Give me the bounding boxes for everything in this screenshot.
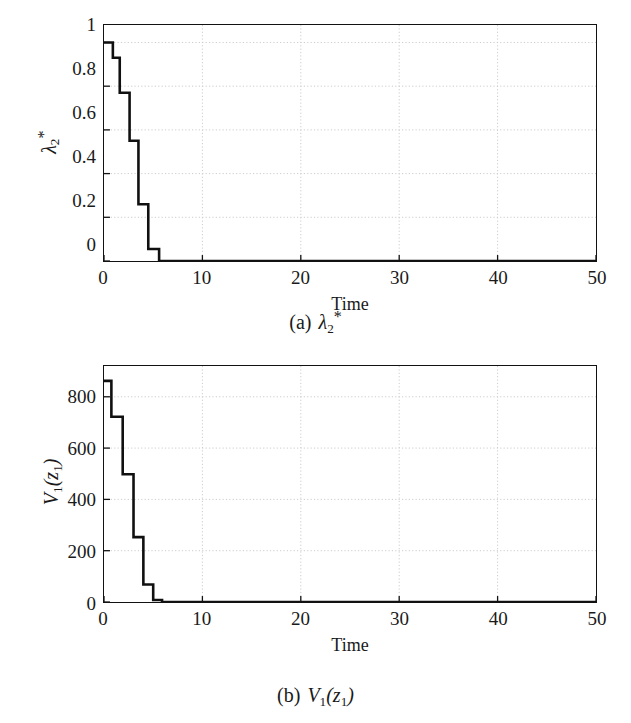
- axes-box-a: [103, 24, 597, 262]
- x-tick-label: 50: [588, 268, 607, 287]
- y-tick-label: 0.4: [72, 147, 96, 166]
- x-tick-label: 20: [291, 268, 310, 287]
- x-axis-label-b: Time: [103, 635, 597, 656]
- x-tick-label: 0: [98, 609, 108, 628]
- data-series-line: [104, 42, 596, 261]
- x-tick-label: 10: [192, 609, 211, 628]
- x-tick-label: 30: [390, 609, 409, 628]
- x-tick-labels-a: 0 10 20 30 40 50: [103, 268, 597, 292]
- x-tick-label: 50: [588, 609, 607, 628]
- y-tick-label: 0: [87, 235, 97, 254]
- subfigure-caption-a: (a)λ2*: [0, 308, 631, 336]
- x-tick-label: 0: [98, 268, 108, 287]
- figure-panel-a: λ2* 1 0.8 0.6 0.4 0.2 0 0 10 20 30 40 50…: [0, 0, 631, 345]
- x-tick-label: 10: [192, 268, 211, 287]
- y-tick-label: 0: [87, 594, 97, 613]
- caption-math-b: V1(z1): [307, 684, 354, 706]
- data-series-line: [104, 381, 596, 602]
- x-tick-label: 40: [489, 268, 508, 287]
- chart-canvas-b: [104, 366, 596, 602]
- y-tick-label: 400: [68, 490, 97, 509]
- x-tick-label: 30: [390, 268, 409, 287]
- y-tick-label: 200: [68, 542, 97, 561]
- y-tick-label: 600: [68, 438, 97, 457]
- plot-area-b: V1(z1) 800 600 400 200 0 0 10 20 30 40 5…: [0, 345, 631, 655]
- axes-box-b: [103, 365, 597, 603]
- caption-math-a: λ2*: [318, 311, 341, 333]
- plot-area-a: λ2* 1 0.8 0.6 0.4 0.2 0 0 10 20 30 40 50…: [0, 0, 631, 275]
- y-tick-label: 800: [68, 387, 97, 406]
- chart-canvas-a: [104, 25, 596, 261]
- y-tick-label: 0.8: [72, 59, 96, 78]
- x-tick-label: 20: [291, 609, 310, 628]
- y-tick-label: 0.6: [72, 103, 96, 122]
- figure-panel-b: V1(z1) 800 600 400 200 0 0 10 20 30 40 5…: [0, 345, 631, 723]
- y-tick-label: 1: [87, 15, 97, 34]
- x-tick-label: 40: [489, 609, 508, 628]
- y-tick-label: 0.2: [72, 191, 96, 210]
- caption-label-b: (b): [277, 684, 300, 706]
- x-tick-labels-b: 0 10 20 30 40 50: [103, 609, 597, 633]
- subfigure-caption-b: (b)V1(z1): [0, 684, 631, 710]
- y-tick-labels-a: 1 0.8 0.6 0.4 0.2 0: [38, 24, 96, 262]
- y-tick-labels-b: 800 600 400 200 0: [38, 365, 96, 603]
- caption-label-a: (a): [289, 311, 311, 333]
